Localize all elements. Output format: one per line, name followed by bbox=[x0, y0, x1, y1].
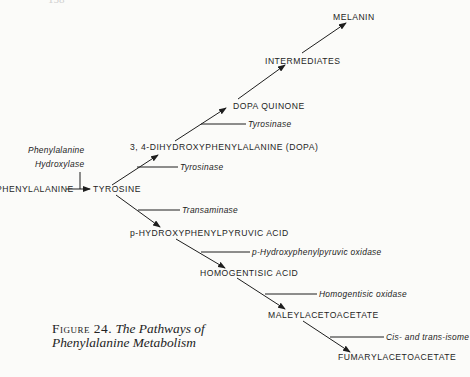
enzyme-transaminase: Transaminase bbox=[182, 205, 238, 215]
node-fumarylacetoacetate: FUMARYLACETOACETATE bbox=[338, 352, 456, 362]
enzyme-phenylalanine-label: Phenylalanine bbox=[28, 145, 85, 155]
figure-title-line2: Phenylalanine Metabolism bbox=[52, 335, 196, 350]
node-phenylalanine: PHENYLALANINE bbox=[0, 184, 74, 194]
arrow-intermediates-melanin bbox=[302, 23, 346, 53]
node-dopa: 3, 4-DIHYDROXYPHENYLALANINE (DOPA) bbox=[130, 142, 318, 152]
node-melanin: MELANIN bbox=[333, 12, 375, 22]
pathway-diagram: 158 bbox=[0, 0, 470, 377]
node-tyrosine: TYROSINE bbox=[93, 184, 141, 194]
node-dopa-quinone: DOPA QUINONE bbox=[233, 101, 305, 111]
enzyme-cis-trans-isomerase: Cis- and trans-isome bbox=[386, 332, 469, 342]
node-intermediates: INTERMEDIATES bbox=[265, 56, 341, 66]
arrow-tyrosine-dopa bbox=[112, 155, 158, 185]
node-maleylacetoacetate: MALEYLACETOACETATE bbox=[268, 310, 379, 320]
enzyme-hydroxylase-label: Hydroxylase bbox=[35, 159, 84, 169]
figure-label: Figure 24. bbox=[52, 321, 112, 336]
enzyme-tyrosinase-upper: Tyrosinase bbox=[248, 119, 291, 129]
enzyme-homogentisic-oxidase: Homogentisic oxidase bbox=[319, 289, 407, 299]
enzyme-tyrosinase-lower: Tyrosinase bbox=[180, 162, 223, 172]
figure-caption: Figure 24. The Pathways of Phenylalanine… bbox=[52, 322, 205, 350]
figure-title-line1: The Pathways of bbox=[115, 321, 204, 336]
arrow-dopaquinone-intermediates bbox=[238, 65, 285, 99]
arrow-phppa-homogentisic bbox=[176, 239, 225, 268]
node-homogentisic-acid: HOMOGENTISIC ACID bbox=[200, 268, 298, 278]
arrow-tyrosine-phppa bbox=[116, 195, 160, 227]
enzyme-p-hydroxyphenylpyruvic-oxidase: p-Hydroxyphenylpyruvic oxidase bbox=[252, 247, 382, 257]
node-p-hydroxyphenylpyruvic-acid: p-HYDROXYPHENYLPYRUVIC ACID bbox=[130, 228, 289, 238]
